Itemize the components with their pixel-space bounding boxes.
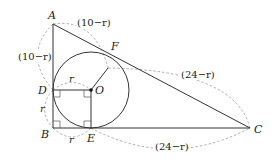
label-A: A (47, 9, 56, 22)
triangle-ABC (53, 24, 250, 128)
right-angle-B (53, 121, 60, 128)
arc-AF (53, 23, 108, 68)
label-D: D (37, 84, 47, 97)
center-point-O (89, 88, 93, 92)
arc-FC (108, 68, 250, 128)
label-B: B (40, 128, 49, 141)
label-E: E (86, 132, 95, 145)
label-C: C (254, 123, 263, 136)
label-O: O (95, 84, 104, 97)
right-angle-E (84, 121, 91, 128)
dim-BE: r (69, 134, 75, 145)
dim-EC: (24−r) (155, 141, 189, 152)
dim-AD: (10−r) (18, 51, 52, 62)
dim-AF: (10−r) (77, 17, 111, 28)
incircle-right-triangle-diagram: A B C D E F O (10−r) (10−r) (24−r) (24−r… (0, 0, 277, 160)
right-angle-D (53, 90, 60, 97)
dim-FC: (24−r) (181, 69, 215, 80)
label-F: F (110, 40, 119, 53)
